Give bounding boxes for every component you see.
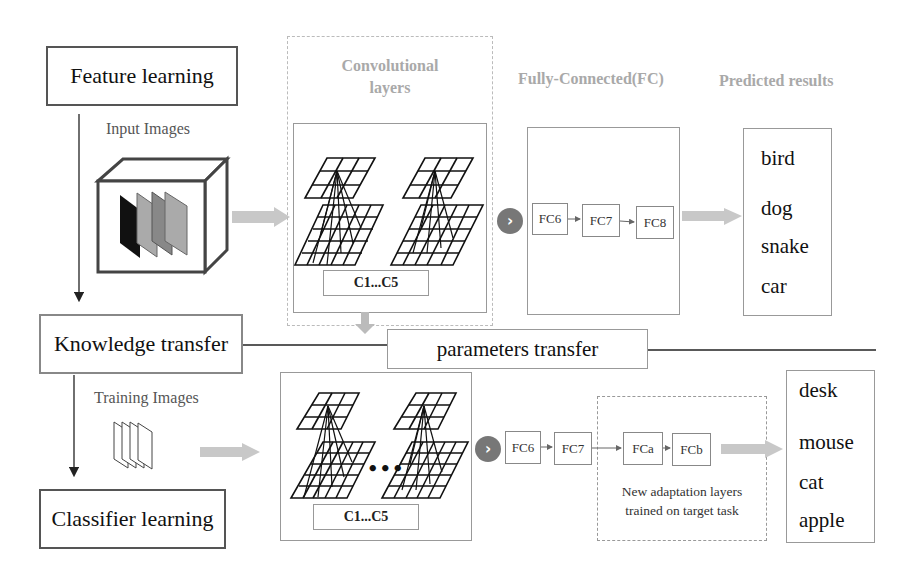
result-apple: apple (799, 508, 844, 533)
result-desk: desk (799, 378, 838, 403)
result-cat: cat (799, 470, 823, 495)
result-mouse: mouse (799, 430, 854, 455)
fc-bottom-connectors (0, 0, 913, 575)
arrow-adapt-to-results-icon (721, 440, 785, 460)
